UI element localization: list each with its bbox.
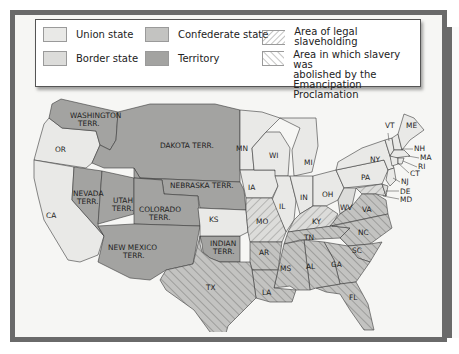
label-la: LA — [262, 288, 271, 297]
back-hatch-swatch-icon — [262, 30, 285, 45]
label-ma: MA — [420, 153, 431, 162]
label-ia: IA — [248, 183, 255, 192]
border-state-swatch — [43, 51, 67, 66]
territory-swatch — [145, 51, 169, 66]
legend-label: Territory — [178, 54, 219, 64]
label-ct: CT — [410, 169, 420, 178]
label-washington-terr-2: TERR. — [77, 119, 100, 128]
label-nj: NJ — [401, 177, 409, 186]
label-nevada-terr-2: TERR. — [76, 197, 99, 206]
label-vt: VT — [385, 121, 395, 130]
label-in: IN — [300, 193, 308, 202]
label-mi: MI — [304, 158, 313, 167]
legend-label: Border state — [76, 54, 138, 64]
label-sc: SC — [352, 246, 362, 255]
legend-item-territory: Territory — [145, 51, 219, 66]
confederate-state-swatch — [145, 27, 169, 42]
state-ks — [198, 208, 248, 236]
label-nc: NC — [358, 228, 369, 237]
legend-item-legal-slaveholding: Area of legal slaveholding — [262, 27, 420, 47]
label-ga: GA — [331, 260, 342, 269]
label-al: AL — [306, 262, 316, 271]
label-me: ME — [406, 121, 417, 130]
legend-label: Confederate state — [178, 30, 268, 40]
label-va: VA — [362, 205, 372, 214]
legend-item-confederate-state: Confederate state — [145, 27, 268, 42]
label-or: OR — [55, 145, 66, 154]
label-oh: OH — [322, 190, 333, 199]
state-ia — [240, 170, 278, 198]
label-mn: MN — [236, 144, 248, 153]
label-ar: AR — [259, 248, 269, 257]
adjacent-panel-edge — [447, 27, 459, 338]
map-legend: Union state Border state Confederate sta… — [35, 19, 421, 87]
label-colorado-terr-2: TERR. — [148, 213, 171, 222]
label-ca: CA — [46, 211, 56, 220]
label-wv: WV — [340, 203, 352, 212]
label-md: MD — [400, 195, 412, 204]
us-civil-war-map: WASHINGTON TERR. DAKOTA TERR. OR NEBRASK… — [15, 92, 442, 332]
label-dakota-terr: DAKOTA TERR. — [160, 141, 214, 150]
label-tx: TX — [205, 283, 216, 292]
forward-hatch-swatch-icon — [262, 51, 284, 66]
label-wi: WI — [269, 151, 279, 160]
label-il: IL — [279, 202, 286, 211]
legend-item-union-state: Union state — [43, 27, 133, 42]
label-mo: MO — [256, 217, 268, 226]
label-ky: KY — [312, 217, 322, 226]
label-utah-terr-2: TERR. — [111, 204, 134, 213]
legend-label: Area of legal slaveholding — [294, 27, 420, 47]
label-new-mexico-terr-2: TERR. — [122, 251, 145, 260]
label-fl: FL — [349, 293, 358, 302]
state-fl — [316, 282, 374, 330]
label-tn: TN — [303, 233, 314, 242]
legend-label: Union state — [76, 30, 133, 40]
label-nebraska-terr: NEBRASKA TERR. — [170, 181, 234, 190]
union-state-swatch — [43, 27, 67, 42]
label-ms: MS — [280, 264, 291, 273]
label-indian-terr-2: TERR. — [212, 247, 235, 256]
label-ny: NY — [370, 155, 381, 164]
legend-item-border-state: Border state — [43, 51, 138, 66]
label-ks: KS — [209, 215, 219, 224]
legend-label-line: Area in which slavery was — [293, 50, 420, 70]
label-pa: PA — [361, 173, 370, 182]
label-nh: NH — [414, 144, 425, 153]
